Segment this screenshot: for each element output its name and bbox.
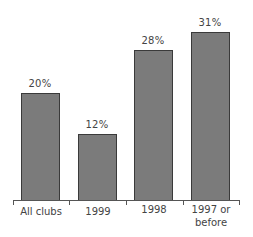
bar-1999 bbox=[78, 134, 117, 201]
bar-all-clubs bbox=[21, 93, 60, 201]
category-label-all-clubs: All clubs bbox=[13, 205, 69, 218]
x-axis-tick bbox=[239, 200, 240, 205]
category-label-1999: 1999 bbox=[70, 205, 126, 218]
value-label-1999: 12% bbox=[72, 119, 122, 130]
category-label-line1: 1997 or bbox=[183, 203, 239, 216]
value-label-1997-or-before: 31% bbox=[185, 17, 235, 28]
category-label-line2: before bbox=[183, 216, 239, 229]
value-label-1998: 28% bbox=[128, 35, 178, 46]
category-label-1997-or-before: 1997 or before bbox=[183, 203, 239, 229]
bar-chart: 20% 12% 28% 31% All clubs 1999 1998 1997… bbox=[0, 0, 253, 237]
bar-1998 bbox=[134, 50, 173, 201]
bar-1997-or-before bbox=[191, 32, 230, 201]
category-label-1998: 1998 bbox=[126, 203, 182, 216]
value-label-all-clubs: 20% bbox=[15, 78, 65, 89]
